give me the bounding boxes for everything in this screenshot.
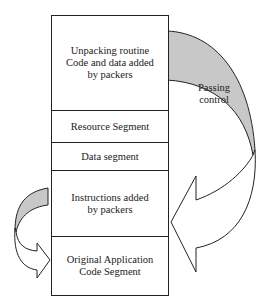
segment-label: Original Application Code Segment <box>67 254 154 278</box>
segment-instructions-added: Instructions added by packers <box>51 170 169 237</box>
segment-label: Data segment <box>81 151 138 163</box>
segment-original-application: Original Application Code Segment <box>51 236 169 296</box>
passing-control-arrow-body <box>171 150 255 272</box>
segment-label: Instructions added by packers <box>71 192 148 216</box>
passing-control-label: Passing control <box>189 82 239 106</box>
left-arrow-gray-band <box>15 188 48 232</box>
segment-label: Resource Segment <box>71 121 149 133</box>
segment-unpacking-routine: Unpacking routine Code and data added by… <box>51 15 169 111</box>
segment-resource: Resource Segment <box>51 110 169 143</box>
segment-data: Data segment <box>51 142 169 171</box>
left-arrow-body <box>15 228 50 278</box>
segment-label: Unpacking routine Code and data added by… <box>66 45 154 81</box>
